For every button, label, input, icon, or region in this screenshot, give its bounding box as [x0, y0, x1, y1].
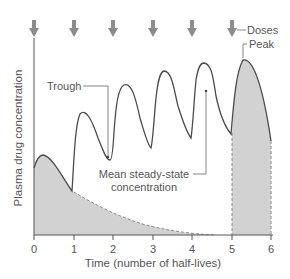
trough-annotation: Trough: [47, 80, 81, 92]
x-tick-4: 4: [189, 243, 195, 255]
trough-leader-line: [83, 86, 108, 157]
doses-annotation: Doses: [247, 24, 279, 36]
first-dose-area: [34, 155, 215, 235]
x-tick-6: 6: [268, 243, 274, 255]
x-tick-1: 1: [71, 243, 77, 255]
peak-leader-line: [243, 44, 247, 58]
mean-annotation-line1: Mean steady-state: [99, 168, 190, 180]
trough-marker: [107, 156, 109, 158]
y-axis-label: Plasma drug concentration: [12, 70, 24, 207]
pharmacokinetics-chart: 0 1 2 3 4 5 6 Time (number of half-lives…: [0, 0, 290, 279]
dose-arrow-icon: [148, 20, 158, 37]
x-tick-5: 5: [229, 243, 235, 255]
steady-state-dose-area: [232, 60, 271, 235]
mean-leader-line: [193, 91, 206, 174]
x-axis-ticks: [34, 235, 271, 240]
dose-arrow-icon: [108, 20, 118, 37]
dose-arrow-icon: [69, 20, 79, 37]
x-tick-0: 0: [31, 243, 37, 255]
peak-annotation: Peak: [249, 38, 275, 50]
x-tick-3: 3: [150, 243, 156, 255]
x-tick-2: 2: [110, 243, 116, 255]
dose-arrow-icon: [187, 20, 197, 37]
dose-arrows: [29, 20, 237, 37]
mean-annotation-line2: concentration: [111, 181, 177, 193]
x-axis-label: Time (number of half-lives): [85, 257, 222, 269]
dose-arrow-icon: [227, 20, 237, 37]
dose-arrow-icon: [29, 20, 39, 37]
